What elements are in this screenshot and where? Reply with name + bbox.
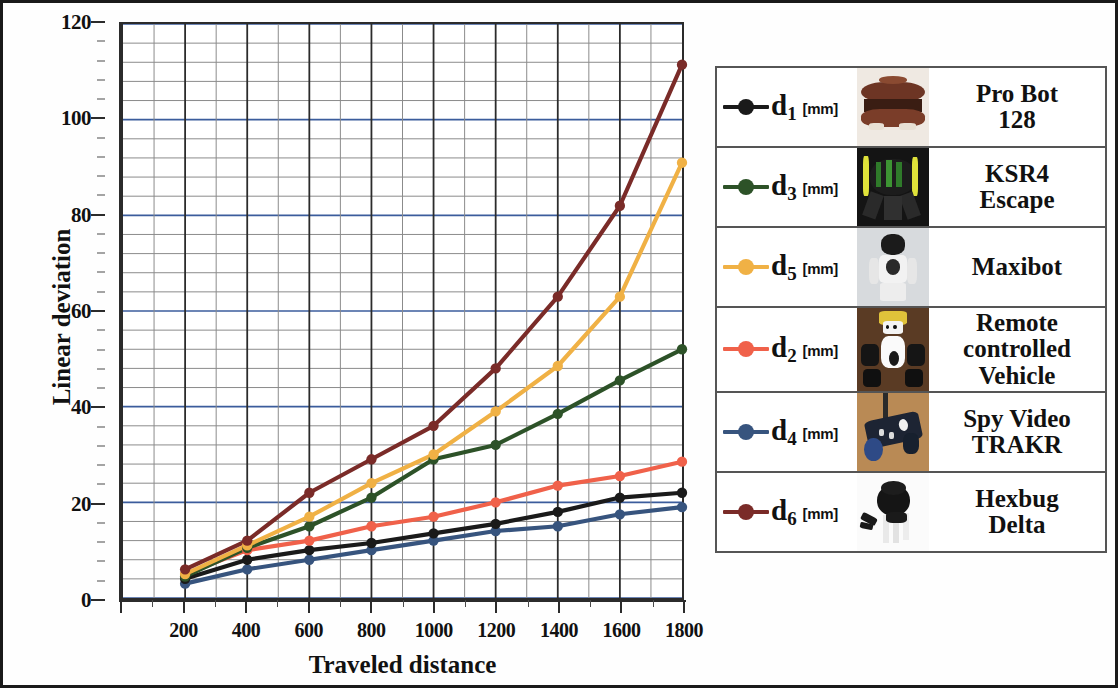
y-tick-mark [91, 214, 105, 216]
x-tick-mark [495, 600, 497, 613]
legend-series-label: d1 [mm] [771, 89, 838, 125]
legend-robot-name-line: Escape [980, 187, 1055, 213]
x-tick-label: 1600 [602, 619, 640, 642]
maxibot-photo [857, 228, 929, 306]
legend-row[interactable]: d5 [mm] Maxibot [717, 228, 1105, 308]
y-minor-tick [97, 99, 105, 100]
legend-robot-name-line: KSR4 [980, 161, 1055, 187]
legend-robot-name: Pro Bot128 [929, 68, 1105, 146]
x-tick-mark [183, 600, 185, 613]
y-minor-tick [97, 484, 105, 485]
spy-video-trakr-photo [857, 393, 929, 471]
legend-line-marker-icon [723, 423, 769, 441]
legend-series-label: d6 [mm] [771, 494, 838, 530]
y-minor-tick [97, 445, 105, 446]
legend-row[interactable]: d4 [mm] Spy VideoTRAKR [717, 393, 1105, 473]
legend-robot-name: Spy VideoTRAKR [929, 393, 1105, 471]
legend-robot-name-line: 128 [976, 107, 1058, 133]
legend-line-marker-icon [723, 340, 769, 358]
legend-row[interactable]: d2 [mm] RemotecontrolledVehicle [717, 308, 1105, 393]
x-tick-label: 800 [357, 619, 386, 642]
y-minor-tick [97, 60, 105, 61]
y-tick-mark [91, 117, 105, 119]
y-tick-mark [91, 310, 105, 312]
legend-row[interactable]: d3 [mm] KSR4Escape [717, 148, 1105, 228]
y-tick-mark [91, 21, 105, 23]
legend-series-label: d5 [mm] [771, 249, 838, 285]
hexbug-delta-photo [857, 473, 929, 551]
x-minor-tick [590, 600, 591, 607]
y-minor-tick [97, 253, 105, 254]
y-tick-mark [91, 406, 105, 408]
legend-series-label: d3 [mm] [771, 169, 838, 205]
legend-robot-name: RemotecontrolledVehicle [929, 308, 1105, 391]
x-minor-tick [653, 600, 654, 607]
x-minor-tick [277, 600, 278, 607]
x-tick-label: 600 [294, 619, 323, 642]
y-tick-mark [91, 599, 105, 601]
y-tick-label: 120 [61, 10, 91, 35]
legend-series-label: d2 [mm] [771, 331, 838, 367]
y-minor-tick [97, 349, 105, 350]
x-tick-mark [433, 600, 435, 613]
y-minor-tick [97, 330, 105, 331]
y-minor-tick [97, 272, 105, 273]
x-minor-tick [215, 600, 216, 607]
y-minor-tick [97, 233, 105, 234]
legend-line-marker-icon [723, 258, 769, 276]
x-tick-label: 1000 [415, 619, 453, 642]
y-minor-tick [97, 388, 105, 389]
legend-robot-name: KSR4Escape [929, 148, 1105, 226]
y-minor-tick [97, 41, 105, 42]
x-tick-mark [120, 600, 122, 613]
x-minor-tick [403, 600, 404, 607]
legend-line-marker-icon [723, 178, 769, 196]
legend-key: d3 [mm] [717, 148, 857, 226]
x-tick-mark [370, 600, 372, 613]
y-minor-tick [97, 137, 105, 138]
x-tick-mark [558, 600, 560, 613]
x-tick-label: 400 [232, 619, 261, 642]
legend-key: d5 [mm] [717, 228, 857, 306]
y-minor-tick [97, 426, 105, 427]
probot-128-photo [857, 68, 929, 146]
legend-robot-name-line: Pro Bot [976, 81, 1058, 107]
x-minor-tick [340, 600, 341, 607]
x-tick-label: 200 [169, 619, 198, 642]
x-tick-mark [308, 600, 310, 613]
legend-series-label: d4 [mm] [771, 414, 838, 450]
legend-robot-name-line: Delta [975, 512, 1058, 538]
legend-row[interactable]: d6 [mm] HexbugDelta [717, 473, 1105, 551]
legend-robot-name-line: TRAKR [963, 432, 1071, 458]
legend-robot-name: HexbugDelta [929, 473, 1105, 551]
y-minor-tick [97, 291, 105, 292]
legend-robot-name: Maxibot [929, 228, 1105, 306]
legend-key: d6 [mm] [717, 473, 857, 551]
y-minor-tick [97, 195, 105, 196]
legend-line-marker-icon [723, 503, 769, 521]
y-minor-tick [97, 176, 105, 177]
x-minor-tick [465, 600, 466, 607]
y-tick-label: 20 [71, 491, 91, 516]
legend-robot-name-line: Spy Video [963, 406, 1071, 432]
ksr4-escape-photo [857, 148, 929, 226]
y-minor-tick [97, 561, 105, 562]
x-tick-mark [620, 600, 622, 613]
x-tick-mark [683, 600, 685, 613]
legend: d1 [mm] Pro Bot128 d3 [mm] [715, 66, 1107, 553]
data-series-layer [123, 24, 682, 598]
x-minor-tick [528, 600, 529, 607]
legend-key: d2 [mm] [717, 308, 857, 391]
legend-robot-name-line: controlled [963, 336, 1071, 362]
y-axis-ticks: 020406080100120 [3, 3, 121, 603]
y-minor-tick [97, 522, 105, 523]
remote-controlled-vehicle-photo [857, 308, 929, 391]
x-tick-label: 1800 [665, 619, 703, 642]
y-minor-tick [97, 465, 105, 466]
x-tick-mark [245, 600, 247, 613]
legend-row[interactable]: d1 [mm] Pro Bot128 [717, 68, 1105, 148]
chart-figure: Linear deviation 020406080100120 2004006… [0, 0, 1118, 688]
plot-area [121, 22, 684, 600]
x-axis-title: Traveled distance [121, 651, 684, 679]
legend-line-marker-icon [723, 98, 769, 116]
